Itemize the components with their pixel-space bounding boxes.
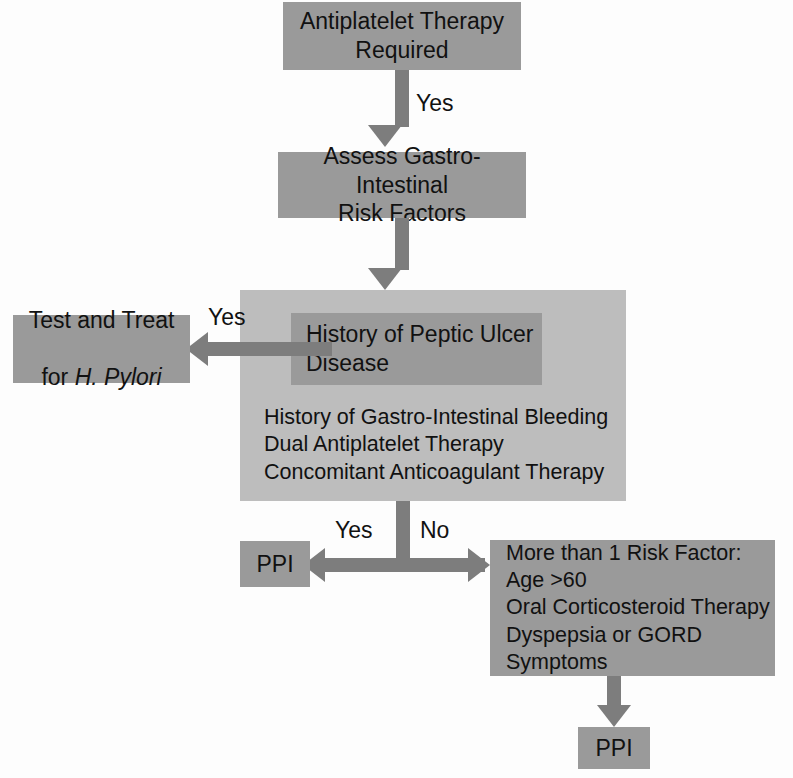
test-and-treat-line-2: for H. Pylori	[41, 335, 161, 393]
node-ppi-left[interactable]: PPI	[240, 541, 310, 587]
node-ppi-bottom[interactable]: PPI	[578, 727, 650, 769]
node-antiplatelet-therapy-required[interactable]: Antiplatelet Therapy Required	[283, 2, 521, 70]
h-pylori-italic-text: H. Pylori	[75, 364, 162, 390]
text-major-risk-factor-list: History of Gastro-Intestinal Bleeding Du…	[264, 400, 624, 490]
arrowhead-down-to-risk-panel	[368, 268, 402, 290]
panel-major-risk-factors[interactable]: History of Peptic Ulcer Disease History …	[240, 290, 626, 501]
edge-label-yes-top: Yes	[416, 92, 454, 115]
edge-label-no-risk: No	[420, 519, 449, 542]
test-and-treat-line-1: Test and Treat	[29, 306, 175, 335]
arrowhead-down-to-ppi-bottom	[597, 705, 631, 727]
node-test-and-treat-for-h-pylori[interactable]: Test and Treat for H. Pylori	[13, 315, 190, 383]
edge-label-yes-ppi: Yes	[335, 519, 373, 542]
edge-label-yes-pylori: Yes	[208, 306, 246, 329]
connector-risk-panel-to-decision	[396, 501, 410, 565]
node-more-than-one-risk-factor[interactable]: More than 1 Risk Factor: Age >60 Oral Co…	[490, 540, 775, 676]
arrowhead-right-to-more-risk-factors	[468, 548, 490, 582]
flowchart-diagram: Antiplatelet Therapy Required Yes Assess…	[0, 0, 793, 778]
connector-peptic-ulcer-to-test-and-treat	[208, 342, 332, 356]
node-assess-gastrointestinal-risk-factors[interactable]: Assess Gastro-Intestinal Risk Factors	[278, 152, 526, 218]
test-and-treat-prefix: for	[41, 364, 74, 390]
connector-decision-horizontal	[325, 558, 485, 572]
connector-required-to-assess	[395, 70, 409, 127]
connector-assess-to-risk-panel	[395, 218, 409, 270]
